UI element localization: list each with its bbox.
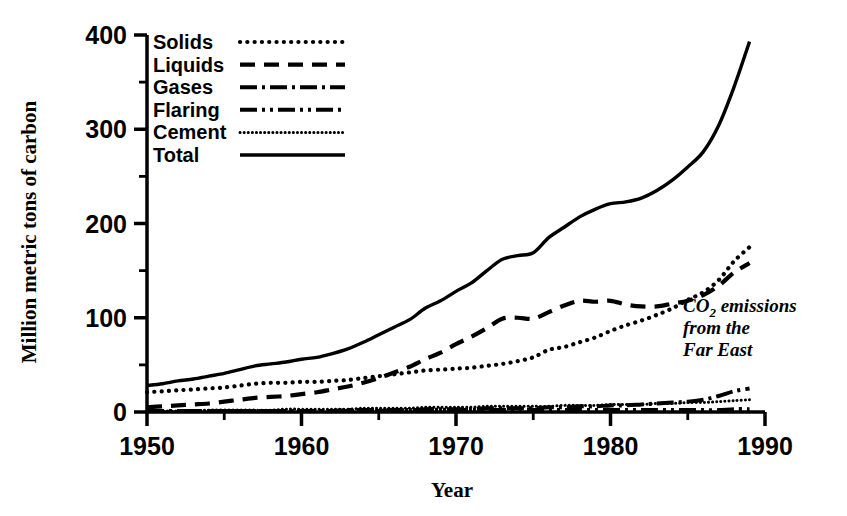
x-tick-label: 1970 [428,432,484,460]
x-axis-title: Year [431,478,473,502]
y-tick-label: 100 [85,304,127,332]
legend-label-solids: Solids [153,31,213,53]
annotation-emissions: emissions [716,295,797,316]
y-tick-label: 300 [85,115,127,143]
annotation-co: CO [683,295,710,316]
x-tick-label: 1980 [583,432,639,460]
legend-label-total: Total [153,144,199,166]
x-tick-label: 1960 [274,432,330,460]
legend-label-gases: Gases [153,76,213,98]
legend-label-flaring: Flaring [153,99,220,121]
y-axis-title: Million metric tons of carbon [17,100,41,363]
x-tick-label: 1990 [737,432,793,460]
y-tick-label: 400 [85,21,127,49]
legend-label-liquids: Liquids [153,54,224,76]
annotation-line-3: Far East [682,339,753,360]
annotation-line-2: from the [683,317,751,338]
co2-emissions-line-chart: 0100200300400 19501960197019801990 Solid… [0,0,847,516]
x-tick-label: 1950 [119,432,175,460]
y-tick-label: 200 [85,210,127,238]
legend-label-cement: Cement [153,121,227,143]
chart-figure: 0100200300400 19501960197019801990 Solid… [0,0,847,516]
y-tick-label: 0 [113,398,127,426]
